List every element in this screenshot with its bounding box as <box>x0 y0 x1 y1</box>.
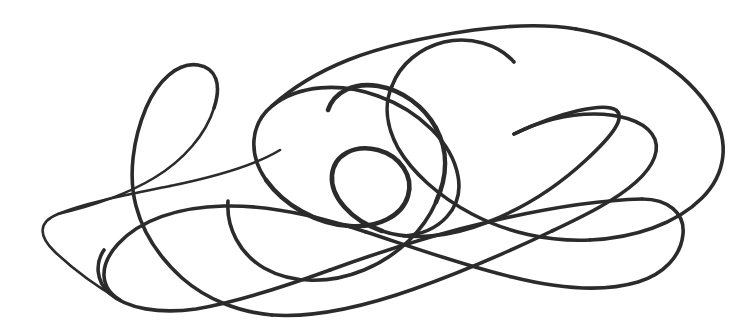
scribble-drawing <box>0 0 756 335</box>
drawing-canvas <box>0 0 756 335</box>
